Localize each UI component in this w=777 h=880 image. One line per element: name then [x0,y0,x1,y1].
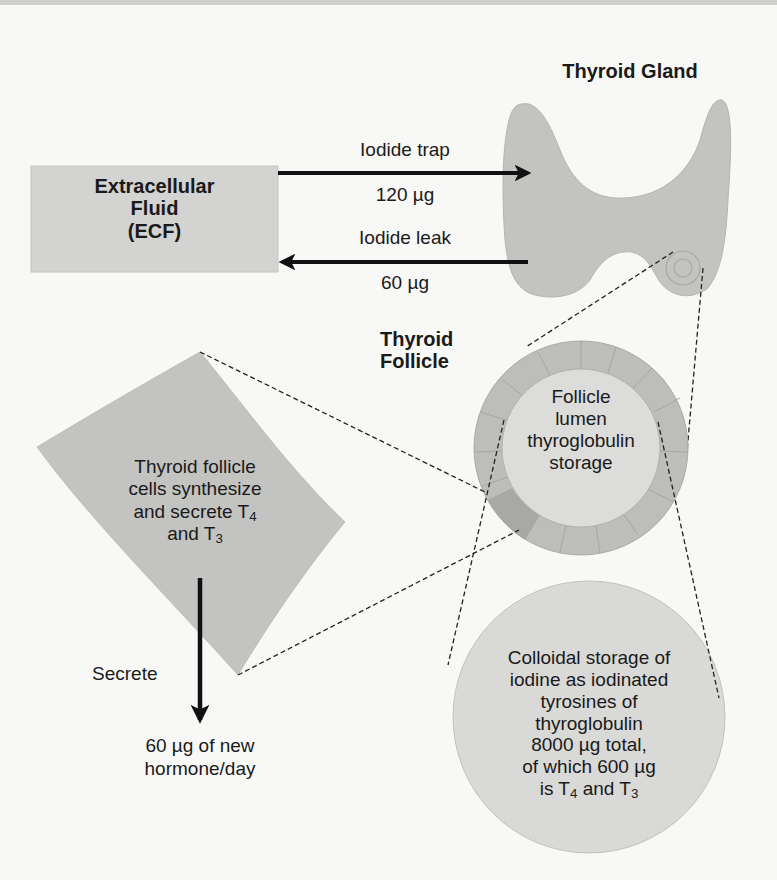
lumen-line-4: storage [501,452,661,474]
cells-line-4-text: and T [167,523,215,544]
cells-line-2: cells synthesize [95,478,295,500]
ecf-label: Extracellular Fluid (ECF) [31,175,278,242]
colloid-line-7: is T4 and T3 [464,778,714,800]
secrete-label: Secrete [92,663,192,684]
lumen-line-1: Follicle [501,386,661,408]
lumen-line-2: lumen [501,408,661,430]
colloid-line-7-b: and T [577,778,631,799]
follicle-lumen-label: Follicle lumen thyroglobulin storage [501,386,661,473]
colloid-line-6: of which 600 µg [464,756,714,778]
cells-line-3-sub: 4 [249,509,256,524]
thyroid-gland-shape [503,100,731,297]
thyroid-follicle-title: Thyroid Follicle [380,328,490,373]
iodide-trap-label: Iodide trap [300,139,510,160]
colloid-line-7-sub-2: 3 [631,786,638,801]
cells-line-1: Thyroid follicle [95,456,295,478]
lumen-line-3: thyroglobulin [501,430,661,452]
colloid-line-3: tyrosines of [464,691,714,713]
ecf-line-2: Fluid [31,197,278,219]
secrete-output-line-2: hormone/day [110,758,290,781]
cells-line-4: and T3 [95,523,295,545]
iodide-leak-amount: 60 µg [300,272,510,293]
colloid-label: Colloidal storage of iodine as iodinated… [464,647,714,800]
colloid-line-2: iodine as iodinated [464,669,714,691]
colloid-line-7-a: is T [540,778,570,799]
secrete-output-line-1: 60 µg of new [110,735,290,758]
iodide-trap-amount: 120 µg [300,184,510,205]
colloid-line-1: Colloidal storage of [464,647,714,669]
thyroid-gland-title: Thyroid Gland [520,60,740,82]
thyroid-follicle-title-line-2: Follicle [380,350,490,372]
cells-line-3: and secrete T4 [95,501,295,523]
ecf-line-3: (ECF) [31,220,278,242]
cells-line-3-text: and secrete T [133,501,249,522]
ecf-line-1: Extracellular [31,175,278,197]
colloid-line-5: 8000 µg total, [464,734,714,756]
cells-line-4-sub: 3 [215,532,222,547]
iodide-leak-label: Iodide leak [300,227,510,248]
colloid-line-4: thyroglobulin [464,713,714,735]
secrete-output-label: 60 µg of new hormone/day [110,735,290,781]
follicle-cells-label: Thyroid follicle cells synthesize and se… [95,456,295,546]
thyroid-follicle-title-line-1: Thyroid [380,328,490,350]
